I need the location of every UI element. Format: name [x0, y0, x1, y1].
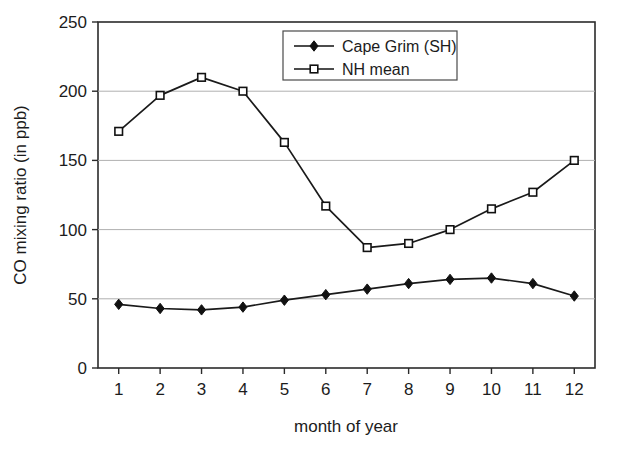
y-tick-label-150: 150	[59, 151, 87, 170]
x-tick-label-8: 8	[404, 380, 413, 399]
x-axis-title: month of year	[294, 417, 398, 436]
y-tick-label-250: 250	[59, 13, 87, 32]
legend-label-2: NH mean	[342, 61, 410, 78]
y-tick-label-50: 50	[68, 290, 87, 309]
legend-label-1: Cape Grim (SH)	[342, 38, 457, 55]
x-tick-label-7: 7	[362, 380, 371, 399]
x-tick-label-1: 1	[114, 380, 123, 399]
x-tick-label-11: 11	[524, 380, 542, 399]
x-tick-label-5: 5	[280, 380, 289, 399]
data-point-4	[239, 87, 247, 95]
x-tick-label-6: 6	[321, 380, 330, 399]
data-point-12	[570, 157, 578, 165]
y-tick-label-200: 200	[59, 82, 87, 101]
chart-figure: 050100150200250 123456789101112 month of…	[0, 0, 630, 452]
x-tick-label-2: 2	[155, 380, 164, 399]
data-point-1	[115, 128, 123, 136]
x-tick-label-3: 3	[197, 380, 206, 399]
y-tick-label-100: 100	[59, 221, 87, 240]
data-point-9	[446, 226, 454, 234]
data-point-2	[156, 92, 164, 100]
y-axis-title: CO mixing ratio (in ppb)	[11, 105, 30, 285]
marker-open-square	[310, 65, 318, 73]
chart-legend: Cape Grim (SH)NH mean	[283, 31, 457, 80]
data-point-6	[322, 202, 330, 210]
data-point-5	[281, 139, 289, 147]
x-tick-label-4: 4	[238, 380, 247, 399]
data-point-10	[488, 205, 496, 213]
data-point-7	[363, 244, 371, 252]
data-point-11	[529, 188, 537, 196]
data-point-8	[405, 240, 413, 248]
co-mixing-ratio-line-chart: 050100150200250 123456789101112 month of…	[0, 0, 630, 452]
x-tick-label-12: 12	[565, 380, 584, 399]
data-point-3	[198, 74, 206, 82]
y-tick-label-0: 0	[78, 359, 87, 378]
x-tick-label-9: 9	[445, 380, 454, 399]
x-tick-label-10: 10	[482, 380, 501, 399]
